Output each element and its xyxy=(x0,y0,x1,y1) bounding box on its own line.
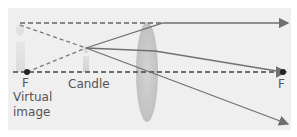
ray-through-center xyxy=(86,48,288,124)
focal-label-right: F xyxy=(278,77,285,91)
virtual-image-icon xyxy=(16,24,25,72)
ray-through-focus xyxy=(86,48,283,72)
convex-lens xyxy=(136,22,158,122)
virtual-image-label-line2: image xyxy=(13,105,50,119)
virtual-image-label-line1: Virtual xyxy=(13,90,52,104)
focal-label-left: F xyxy=(22,76,29,90)
ray-parallel-out xyxy=(86,23,288,48)
focal-point-left xyxy=(24,69,30,75)
candle-icon xyxy=(83,47,89,73)
virtual-ray-diagonal-down xyxy=(27,48,86,72)
virtual-ray-diagonal-up xyxy=(20,25,86,48)
focal-point-right xyxy=(280,69,286,75)
candle-label: Candle xyxy=(68,77,110,91)
